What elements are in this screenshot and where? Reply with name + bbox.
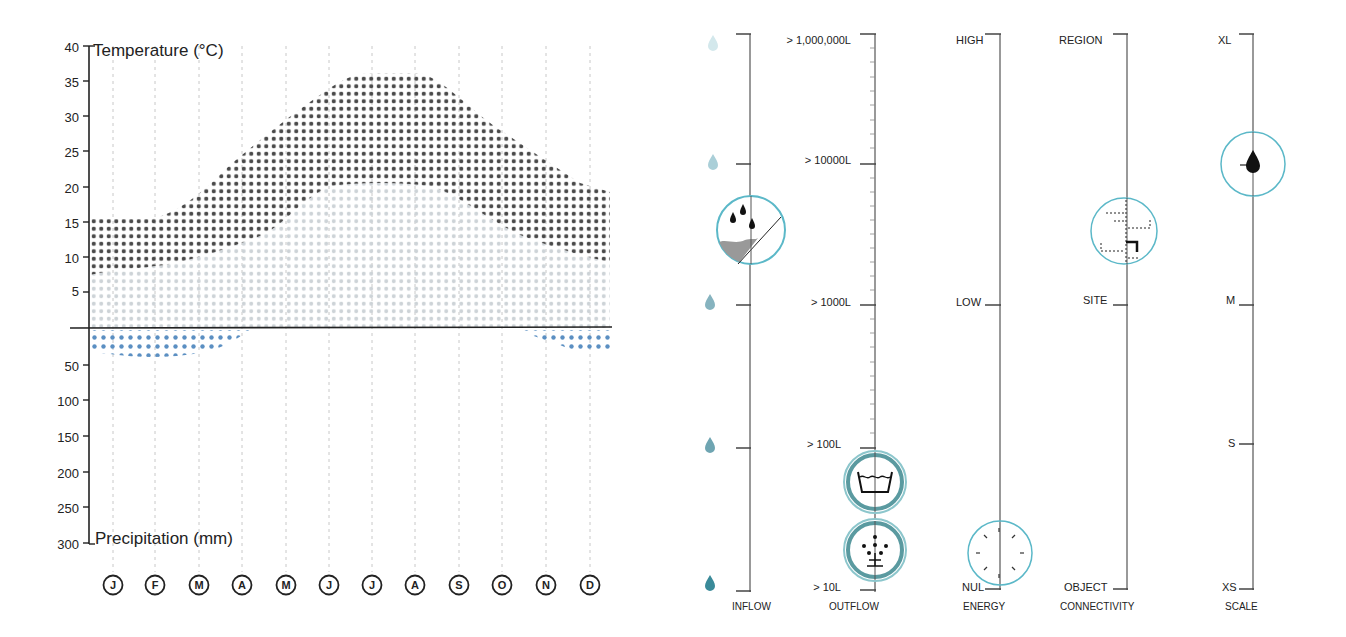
network-icon xyxy=(1091,198,1157,264)
outflow-caption: OUTFLOW xyxy=(829,601,880,612)
month-sep: S xyxy=(450,576,469,595)
connectivity-scale: REGION SITE OBJECT CONNECTIVITY xyxy=(1059,34,1157,612)
drop-icon-1 xyxy=(708,35,718,51)
month-oct: O xyxy=(493,576,512,595)
month-jul: J xyxy=(363,576,382,595)
connectivity-tick-region: REGION xyxy=(1059,34,1102,46)
month-markers: J F M A M J J A S O N D xyxy=(104,576,600,595)
energy-tick-high: HIGH xyxy=(956,34,984,46)
connectivity-tick-site: SITE xyxy=(1083,294,1107,306)
size-scale: XL L M S XS SCALE xyxy=(1218,34,1285,612)
svg-text:A: A xyxy=(411,579,419,591)
tick-10: 10 xyxy=(65,251,79,266)
tick-20: 20 xyxy=(65,181,79,196)
month-jun: J xyxy=(320,576,339,595)
temperature-axis-label: Temperature (°C) xyxy=(93,41,224,60)
outflow-tick-10000: > 10000L xyxy=(805,154,851,166)
tick-35: 35 xyxy=(65,75,79,90)
tick-p50: 50 xyxy=(65,359,79,374)
month-may: M xyxy=(277,576,296,595)
outflow-tick-100: > 100L xyxy=(807,438,841,450)
scale-tick-l: L xyxy=(1226,158,1232,170)
energy-caption: ENERGY xyxy=(963,601,1006,612)
month-apr: A xyxy=(233,576,252,595)
tick-p250: 250 xyxy=(57,501,79,516)
drop-icon xyxy=(1221,132,1285,196)
tick-p200: 200 xyxy=(57,466,79,481)
svg-text:J: J xyxy=(369,579,375,591)
scale-tick-xs: XS xyxy=(1222,581,1237,593)
scale-tick-m: M xyxy=(1226,294,1235,306)
svg-text:M: M xyxy=(281,579,290,591)
svg-text:N: N xyxy=(542,579,550,591)
outflow-tick-1000: > 1000L xyxy=(811,296,851,308)
drop-icon-3 xyxy=(705,294,715,310)
climate-chart: 40 35 30 25 20 15 10 5 50 100 150 200 25… xyxy=(0,0,640,637)
svg-text:O: O xyxy=(498,579,507,591)
tick-15: 15 xyxy=(65,216,79,231)
outflow-minor-ticks xyxy=(870,48,875,433)
tick-p150: 150 xyxy=(57,430,79,445)
svg-text:S: S xyxy=(455,579,462,591)
month-dec: D xyxy=(581,576,600,595)
tick-5: 5 xyxy=(72,284,79,299)
scale-caption: SCALE xyxy=(1225,601,1258,612)
month-mar: M xyxy=(190,576,209,595)
shower-icon xyxy=(844,519,906,581)
tick-30: 30 xyxy=(65,110,79,125)
scale-tick-s: S xyxy=(1228,437,1235,449)
drop-icon-2 xyxy=(708,154,718,170)
svg-text:M: M xyxy=(194,579,203,591)
temperature-ticks xyxy=(83,46,89,543)
tick-p100: 100 xyxy=(57,394,79,409)
washbasin-icon xyxy=(844,451,906,513)
tick-40: 40 xyxy=(65,40,79,55)
precipitation-area-early xyxy=(90,330,250,357)
outflow-tick-1m: > 1,000,000L xyxy=(786,34,851,46)
month-nov: N xyxy=(537,576,556,595)
outflow-scale: > 1,000,000L > 10000L > 1000L > 100L > 1… xyxy=(786,34,906,612)
clock-icon xyxy=(968,521,1032,585)
zero-axis xyxy=(70,327,612,328)
inflow-caption: INFLOW xyxy=(732,601,771,612)
svg-text:A: A xyxy=(238,579,246,591)
connectivity-tick-object: OBJECT xyxy=(1064,581,1108,593)
svg-text:F: F xyxy=(152,579,159,591)
precipitation-area-late xyxy=(520,330,612,352)
tick-p300: 300 xyxy=(57,537,79,552)
svg-text:J: J xyxy=(326,579,332,591)
inflow-scale: INFLOW xyxy=(705,34,785,612)
tick-25: 25 xyxy=(65,145,79,160)
precipitation-axis-label: Precipitation (mm) xyxy=(95,529,233,548)
energy-scale: HIGH LOW NUL ENERGY xyxy=(956,34,1032,612)
month-aug: A xyxy=(406,576,425,595)
tick-labels: 40 35 30 25 20 15 10 5 50 100 150 200 25… xyxy=(57,40,79,552)
energy-tick-low: LOW xyxy=(956,296,982,308)
svg-text:J: J xyxy=(110,579,116,591)
drop-icon-5 xyxy=(705,575,715,591)
outflow-tick-10: > 10L xyxy=(813,581,841,593)
month-feb: F xyxy=(146,576,165,595)
drop-icon-4 xyxy=(705,437,715,453)
svg-text:D: D xyxy=(586,579,594,591)
connectivity-caption: CONNECTIVITY xyxy=(1060,601,1135,612)
month-jan: J xyxy=(104,576,123,595)
rainwater-harvest-icon xyxy=(717,196,785,264)
energy-tick-nul: NUL xyxy=(962,581,984,593)
scale-tick-xl: XL xyxy=(1218,34,1231,46)
